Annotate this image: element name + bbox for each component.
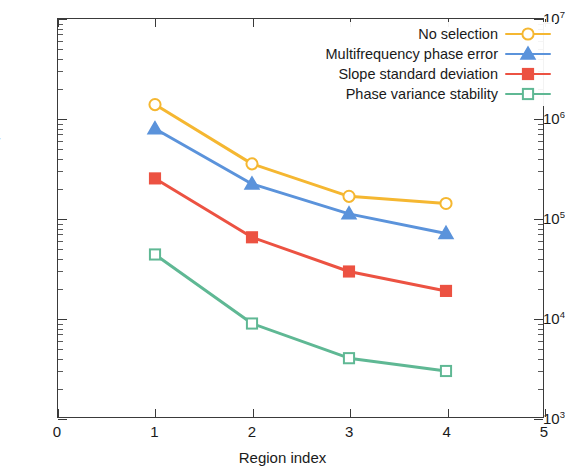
legend-marker — [518, 25, 538, 43]
data-point-marker — [343, 191, 354, 202]
data-point-marker — [441, 286, 451, 296]
chart-legend: No selectionMultifrequency phase errorSl… — [324, 22, 555, 106]
data-point-marker — [522, 28, 533, 39]
x-axis-tick-label: 0 — [37, 423, 77, 440]
legend-item-swatch — [505, 65, 551, 83]
legend-item-slope-standard-deviation[interactable]: Slope standard deviation — [326, 64, 551, 84]
data-point-marker — [523, 69, 533, 79]
y-axis-major-tick — [58, 419, 67, 420]
legend-item-no-selection[interactable]: No selection — [326, 24, 551, 44]
y-axis-major-tick — [534, 419, 543, 420]
x-axis-tick-label: 4 — [427, 423, 467, 440]
data-point-marker — [344, 266, 354, 276]
x-axis-label: Region index — [0, 449, 565, 466]
x-axis-tick-label: 2 — [232, 423, 272, 440]
x-axis-tick-label: 5 — [524, 423, 564, 440]
y-axis-label: Number of selected PSr — [0, 137, 2, 300]
legend-item-label: Multifrequency phase error — [326, 46, 505, 62]
data-point-marker — [247, 232, 257, 242]
x-axis-tick-label: 1 — [134, 423, 174, 440]
data-point-marker — [148, 122, 161, 133]
data-point-marker — [344, 353, 354, 363]
data-point-marker — [521, 47, 534, 58]
x-axis-tick-label: 3 — [329, 423, 369, 440]
data-point-marker — [150, 249, 160, 259]
legend-marker — [518, 45, 538, 63]
legend-marker — [518, 85, 538, 103]
series-line — [155, 254, 446, 371]
legend-item-multifrequency-phase-error[interactable]: Multifrequency phase error — [326, 44, 551, 64]
y-axis-label-text: Number of selected PS — [0, 140, 1, 299]
data-point-marker — [441, 366, 451, 376]
y-axis-label-subscript: r — [0, 137, 2, 141]
data-point-marker — [247, 318, 257, 328]
x-axis-major-tick — [545, 409, 546, 417]
data-series — [150, 173, 451, 296]
data-point-marker — [246, 158, 257, 169]
data-series — [149, 99, 451, 209]
data-point-marker — [150, 173, 160, 183]
legend-item-label: Slope standard deviation — [338, 66, 505, 82]
legend-item-swatch — [505, 85, 551, 103]
legend-item-swatch — [505, 25, 551, 43]
legend-item-swatch — [505, 45, 551, 63]
data-point-marker — [523, 89, 533, 99]
figure-canvas: Number of selected PSr Region index 1031… — [0, 0, 565, 475]
series-line — [155, 178, 446, 291]
legend-item-phase-variance-stability[interactable]: Phase variance stability — [326, 84, 551, 104]
legend-item-label: No selection — [418, 26, 505, 42]
legend-marker — [518, 65, 538, 83]
data-point-marker — [440, 198, 451, 209]
legend-item-label: Phase variance stability — [346, 86, 505, 102]
data-series — [150, 249, 451, 376]
data-point-marker — [149, 99, 160, 110]
